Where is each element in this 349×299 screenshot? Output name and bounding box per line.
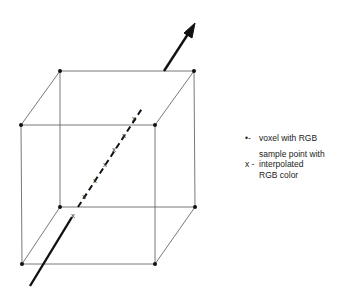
sample-x-icon: x: [93, 176, 97, 185]
voxel-dot-icon: [58, 205, 62, 209]
cube-edge: [194, 71, 195, 207]
sample-x-icon: x: [132, 114, 136, 123]
legend-label-line: RGB color: [245, 170, 325, 181]
cube-edge: [21, 125, 22, 264]
sample-x-icon: x: [82, 192, 86, 201]
voxel-dot-icon: [153, 262, 157, 266]
legend-symbol-sample: x -: [245, 159, 259, 170]
sample-x-icon: x: [103, 160, 107, 169]
ray: [30, 23, 195, 286]
voxel-dot-icon: [19, 123, 23, 127]
ray-exit-segment: [164, 34, 188, 71]
cube-edge: [21, 71, 60, 125]
legend-item-sample: x -interpolated: [245, 159, 325, 170]
voxel-dot-icon: [193, 205, 197, 209]
legend-label: interpolated: [259, 159, 303, 169]
voxel-dots: [19, 69, 197, 266]
cube-edge: [155, 71, 194, 125]
legend: •-voxel with RGB sample point with x -in…: [245, 133, 325, 180]
cube-edge: [22, 207, 60, 264]
voxel-dot-icon: [20, 262, 24, 266]
cube-edge: [155, 207, 195, 264]
legend-label: voxel with RGB: [259, 133, 317, 143]
legend-symbol-voxel: •-: [245, 133, 259, 144]
cube: [21, 71, 195, 264]
ray-entry-segment: [30, 217, 72, 286]
voxel-dot-icon: [153, 123, 157, 127]
sample-x-icon: x: [122, 131, 126, 140]
voxel-dot-icon: [192, 69, 196, 73]
sample-x-icon: x: [112, 145, 116, 154]
legend-item-voxel: •-voxel with RGB: [245, 133, 325, 144]
sample-x-icon: x: [71, 211, 75, 220]
legend-label-line: sample point with: [245, 149, 325, 160]
voxel-dot-icon: [58, 69, 62, 73]
